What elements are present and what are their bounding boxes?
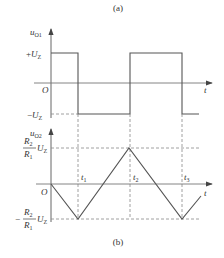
y-axis-label-a: uO1 bbox=[30, 27, 42, 38]
panel-a-axes bbox=[34, 29, 212, 118]
svg-text:UZ: UZ bbox=[37, 214, 48, 225]
x-axis-label-b: t bbox=[204, 188, 207, 198]
upper-level-label-b: R2 R1 UZ bbox=[23, 136, 48, 160]
lower-level-label-b: − R2 R1 UZ bbox=[15, 207, 48, 231]
svg-text:R1: R1 bbox=[23, 220, 33, 231]
triangle-wave bbox=[51, 148, 201, 219]
x-axis-label-a: t bbox=[204, 85, 207, 95]
waveform-figure: (a) uO1 t O +UZ −UZ uO2 t O R2 R1 UZ − R… bbox=[0, 0, 224, 258]
caption-b: (b) bbox=[113, 237, 124, 247]
tick-label-t2: t2 bbox=[133, 172, 139, 183]
svg-text:UZ: UZ bbox=[37, 143, 48, 154]
lower-level-label-a: −UZ bbox=[27, 110, 43, 121]
svg-text:R1: R1 bbox=[23, 149, 33, 160]
level-guide-lines-b bbox=[51, 148, 200, 219]
svg-text:−: − bbox=[15, 214, 20, 224]
origin-label-b: O bbox=[41, 187, 48, 197]
svg-text:R2: R2 bbox=[23, 207, 33, 218]
tick-label-t1: t1 bbox=[81, 172, 87, 183]
tick-label-t3: t3 bbox=[184, 172, 190, 183]
square-wave bbox=[51, 53, 199, 114]
upper-level-label-a: +UZ bbox=[26, 49, 42, 60]
time-guide-lines bbox=[78, 114, 182, 219]
caption-a: (a) bbox=[113, 3, 123, 13]
origin-label-a: O bbox=[42, 85, 49, 95]
y-axis-label-b: uO2 bbox=[30, 128, 42, 139]
